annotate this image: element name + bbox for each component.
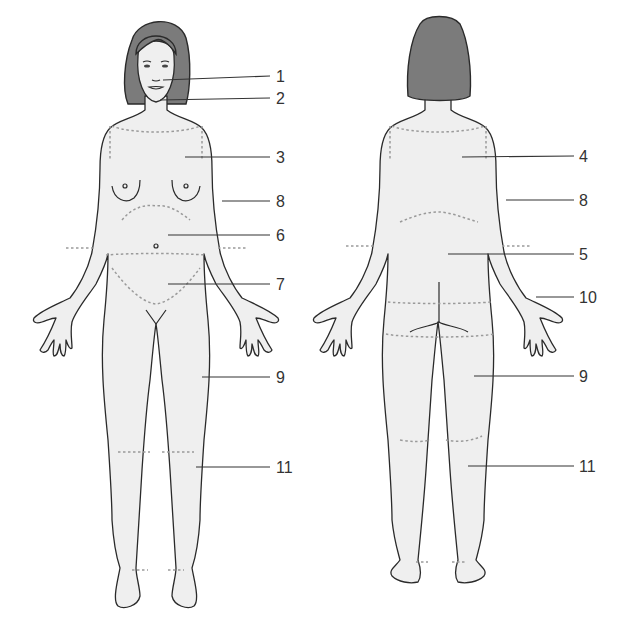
- label-9-back: 9: [579, 368, 588, 385]
- label-9-front: 9: [276, 369, 285, 386]
- left-eye-icon: [144, 64, 150, 67]
- back-figure: [313, 17, 562, 583]
- label-8-back: 8: [579, 192, 588, 209]
- label-4: 4: [579, 148, 588, 165]
- back-body-outline: [313, 96, 562, 583]
- label-5: 5: [579, 246, 588, 263]
- label-2: 2: [276, 90, 285, 107]
- label-6: 6: [276, 227, 285, 244]
- label-3: 3: [276, 149, 285, 166]
- front-figure: [33, 22, 278, 608]
- front-body-outline: [33, 96, 278, 608]
- label-10: 10: [579, 289, 597, 306]
- label-7: 7: [276, 276, 285, 293]
- body-region-diagram: 1 2 3 8 6 7 9 11 4 8 5 10 9 11: [0, 0, 623, 630]
- label-11-front: 11: [276, 459, 293, 476]
- label-8-front: 8: [276, 193, 285, 210]
- hair-back: [408, 17, 471, 101]
- back-labels: 4 8 5 10 9 11: [579, 148, 597, 475]
- label-1: 1: [276, 68, 285, 85]
- label-11-back: 11: [579, 458, 596, 475]
- right-eye-icon: [162, 64, 168, 67]
- front-labels: 1 2 3 8 6 7 9 11: [276, 68, 293, 476]
